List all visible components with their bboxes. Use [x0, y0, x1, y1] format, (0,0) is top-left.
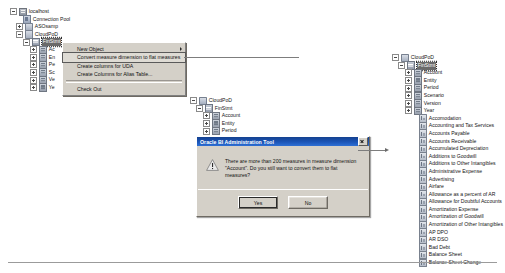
menu-item[interactable]: New Object [63, 45, 185, 53]
expand-plus-icon[interactable] [203, 128, 210, 135]
dialog-message: There are more than 200 measures in meas… [225, 158, 361, 179]
dialog-title: Oracle BI Administration Tool [200, 139, 356, 145]
tree-node[interactable]: Account [203, 112, 240, 120]
expander-blank-icon [412, 169, 417, 174]
menu-item-label: Check Out [77, 85, 102, 93]
expander-blank-icon [412, 184, 417, 189]
expander-blank-icon [412, 177, 417, 182]
tree-node[interactable]: CloudPoD [190, 97, 240, 105]
connector-menu-horizontal [184, 57, 299, 58]
collapse-minus-icon[interactable] [196, 105, 203, 112]
expander-blank-icon [412, 215, 417, 220]
collapse-minus-icon[interactable] [16, 31, 23, 38]
warning-icon [206, 159, 219, 171]
tree-node-label: Accounts Payable [429, 130, 470, 138]
tree-node-label: Amortization of Other Intangibles [429, 221, 503, 229]
dimension-icon [212, 127, 221, 136]
connector-result-arrow [385, 148, 389, 152]
expand-plus-icon[interactable] [405, 69, 412, 76]
expand-plus-icon[interactable] [405, 85, 412, 92]
tree-node-label: Scenario [424, 92, 444, 100]
expand-plus-icon[interactable] [30, 46, 37, 53]
dimension-icon [39, 83, 48, 92]
collapse-minus-icon[interactable] [190, 97, 197, 104]
expand-plus-icon[interactable] [203, 112, 210, 119]
collapse-minus-icon[interactable] [398, 62, 405, 69]
expander-blank-icon [412, 207, 417, 212]
tree-node-label: Account [222, 112, 240, 120]
menu-item[interactable]: Check Out [63, 85, 185, 93]
collapse-minus-icon[interactable] [392, 54, 399, 61]
submenu-arrow-icon [180, 47, 182, 51]
expand-plus-icon[interactable] [30, 54, 37, 61]
menu-item-label: Create columns for UDA [77, 62, 133, 70]
expander-blank-icon [412, 162, 417, 167]
expander-blank-icon [412, 192, 417, 197]
no-button[interactable]: No [288, 196, 328, 209]
menu-item-label: Convert measure dimension to flat measur… [77, 53, 180, 61]
tree-node-label: ASOsamp [35, 23, 58, 31]
tree-node-label: AR DSO [429, 236, 449, 244]
expander-blank-icon [412, 230, 417, 235]
expander-blank-icon [412, 245, 417, 250]
tree-node[interactable]: localhost [10, 8, 70, 16]
collapse-minus-icon[interactable] [10, 8, 17, 15]
menu-item[interactable]: Convert measure dimension to flat measur… [63, 53, 185, 61]
expander-blank-icon [412, 116, 417, 121]
expander-blank-icon [412, 238, 417, 243]
expander-blank-icon [412, 154, 417, 159]
tree-node-label: localhost [29, 8, 49, 16]
tree-node-label: Accumulated Depreciation [429, 145, 488, 153]
expand-plus-icon[interactable] [16, 23, 23, 30]
expander-blank-icon [412, 124, 417, 129]
tree-node-label: Allowance for Doubtful Accounts [429, 198, 502, 206]
expander-blank-icon [16, 17, 21, 22]
dialog-body: There are more than 200 measures in meas… [197, 146, 369, 189]
expander-blank-icon [412, 139, 417, 144]
expand-plus-icon[interactable] [30, 61, 37, 68]
tree-node[interactable]: Advertising [412, 176, 503, 184]
expand-plus-icon[interactable] [30, 69, 37, 76]
bottom-divider [8, 262, 497, 263]
close-icon[interactable] [358, 137, 368, 146]
menu-item-label: New Object [77, 45, 104, 53]
right-repository-tree[interactable]: CloudPoDFinStmtAccountEntityPeriodScenar… [392, 54, 503, 267]
yes-button[interactable]: Yes [238, 196, 278, 209]
expander-blank-icon [412, 131, 417, 136]
tree-node-label: Ye [49, 84, 55, 92]
middle-repository-tree[interactable]: CloudPoDFinStmtAccountEntityPeriod [190, 97, 240, 135]
expand-plus-icon[interactable] [30, 84, 37, 91]
expand-plus-icon[interactable] [405, 77, 412, 84]
expand-plus-icon[interactable] [405, 100, 412, 107]
tree-node-label: Airfare [429, 183, 444, 191]
menu-item[interactable]: Create columns for UDA [63, 62, 185, 70]
expander-blank-icon [412, 253, 417, 258]
tree-node-label: Pe [49, 61, 55, 69]
expander-blank-icon [412, 222, 417, 227]
tree-node-label: Ac [49, 46, 55, 54]
screenshot-canvas: localhostConnection PoolASOsampCloudPoDF… [0, 0, 505, 273]
expand-plus-icon[interactable] [203, 120, 210, 127]
dialog-title-bar: Oracle BI Administration Tool [197, 137, 369, 146]
connector-result-horizontal [358, 150, 386, 151]
expand-plus-icon[interactable] [30, 77, 37, 84]
menu-item-label: Create Columns for Alias Table... [77, 70, 152, 78]
expander-blank-icon [412, 146, 417, 151]
expand-plus-icon[interactable] [405, 92, 412, 99]
context-menu[interactable]: New ObjectConvert measure dimension to f… [62, 42, 186, 96]
dialog-buttons: Yes No [198, 189, 368, 216]
tree-node-label: Period [222, 127, 237, 135]
tree-node[interactable]: Period [203, 127, 240, 135]
confirmation-dialog[interactable]: Oracle BI Administration Tool There are … [196, 136, 370, 217]
expand-plus-icon[interactable] [405, 107, 412, 114]
menu-separator [66, 80, 182, 83]
tree-node-label: Administrative Expense [429, 168, 482, 176]
expander-blank-icon [412, 200, 417, 205]
collapse-minus-icon[interactable] [23, 39, 30, 46]
tree-node-label: Account [424, 69, 442, 77]
menu-item[interactable]: Create Columns for Alias Table... [63, 70, 185, 78]
